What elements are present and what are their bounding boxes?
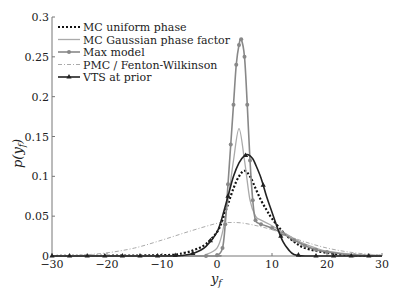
legend-item: VTS at prior: [58, 71, 152, 84]
y-tick-label: 0.15: [25, 131, 50, 144]
legend-label: PMC / Fenton-Wilkinson: [83, 59, 217, 72]
legend-label: Max model: [83, 46, 145, 59]
legend-label: MC uniform phase: [83, 21, 187, 34]
legend-item: MC uniform phase: [58, 21, 187, 34]
chart-figure: −30−20−10010203000.050.10.150.20.250.3 M…: [0, 0, 399, 296]
y-tick-label: 0.2: [32, 91, 50, 104]
x-tick-label: −20: [95, 258, 118, 271]
y-tick-label: 0.1: [32, 170, 50, 183]
series-vts-at-prior: [49, 152, 382, 257]
series-mc-uniform-phase: [52, 171, 382, 256]
x-axis-label: yf: [210, 271, 223, 288]
y-tick-label: 0.25: [25, 51, 50, 64]
x-tick-label: 20: [320, 258, 334, 271]
legend-label: VTS at prior: [82, 71, 152, 84]
series-pmc-fenton-wilkinson: [52, 222, 382, 256]
axes: −30−20−10010203000.050.10.150.20.250.3: [25, 11, 390, 271]
y-axis-label: p(yf): [10, 139, 27, 168]
y-tick-label: 0.3: [32, 11, 50, 24]
y-tick-label: 0.05: [25, 210, 50, 223]
x-tick-label: −10: [150, 258, 173, 271]
x-tick-label: 0: [214, 258, 221, 271]
svg-text:p(yf): p(yf): [10, 139, 27, 168]
series-mc-gaussian-phase-factor: [52, 129, 382, 256]
plot-area: −30−20−10010203000.050.10.150.20.250.3 M…: [0, 0, 399, 296]
legend-label: MC Gaussian phase factor: [83, 34, 231, 47]
x-tick-label: 30: [375, 258, 389, 271]
legend-item: MC Gaussian phase factor: [58, 34, 231, 47]
x-tick-label: 10: [265, 258, 279, 271]
legend: MC uniform phaseMC Gaussian phase factor…: [58, 21, 231, 84]
legend-item: PMC / Fenton-Wilkinson: [58, 59, 217, 72]
y-tick-label: 0: [42, 250, 49, 263]
legend-item: Max model: [58, 46, 145, 59]
